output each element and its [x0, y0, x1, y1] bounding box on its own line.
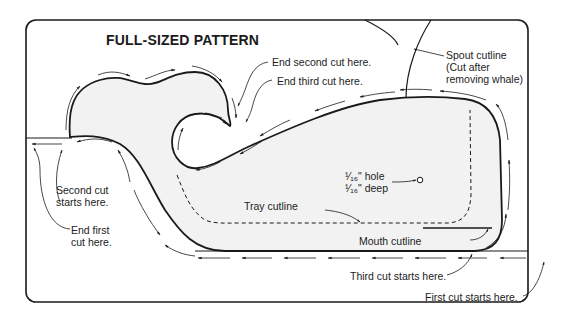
label-tray-cutline: Tray cutline: [244, 200, 298, 212]
label-second-cut-line-2: starts here.: [56, 196, 109, 208]
label-second-cut-line-1: Second cut: [56, 184, 109, 196]
label-mouth-cutline: Mouth cutline: [359, 235, 421, 247]
label-spout-line-3: removing whale): [446, 73, 523, 85]
label-first-cut-starts: First cut starts here.: [425, 291, 518, 303]
label-spout-line-1: Spout cutline: [446, 49, 523, 61]
label-hole-line-2: ¹⁄₁₆" deep: [345, 182, 388, 194]
label-spout-line-2: (Cut after: [446, 61, 523, 73]
label-spout-cutline: Spout cutline (Cut after removing whale): [446, 49, 523, 85]
label-end-first-line-1: End first: [71, 224, 112, 236]
label-end-second-cut: End second cut here.: [272, 56, 371, 68]
label-hole-line-1: ¹⁄₁₆" hole: [345, 170, 388, 182]
label-end-third-cut: End third cut here.: [277, 75, 363, 87]
label-third-cut-starts: Third cut starts here.: [350, 270, 446, 282]
page-title: FULL-SIZED PATTERN: [106, 32, 259, 48]
hole-marker-icon: [417, 177, 423, 183]
label-end-first-line-2: cut here.: [71, 236, 112, 248]
label-second-cut-starts: Second cut starts here.: [56, 184, 109, 208]
label-end-first-cut: End first cut here.: [71, 224, 112, 248]
label-hole: ¹⁄₁₆" hole ¹⁄₁₆" deep: [345, 170, 388, 194]
